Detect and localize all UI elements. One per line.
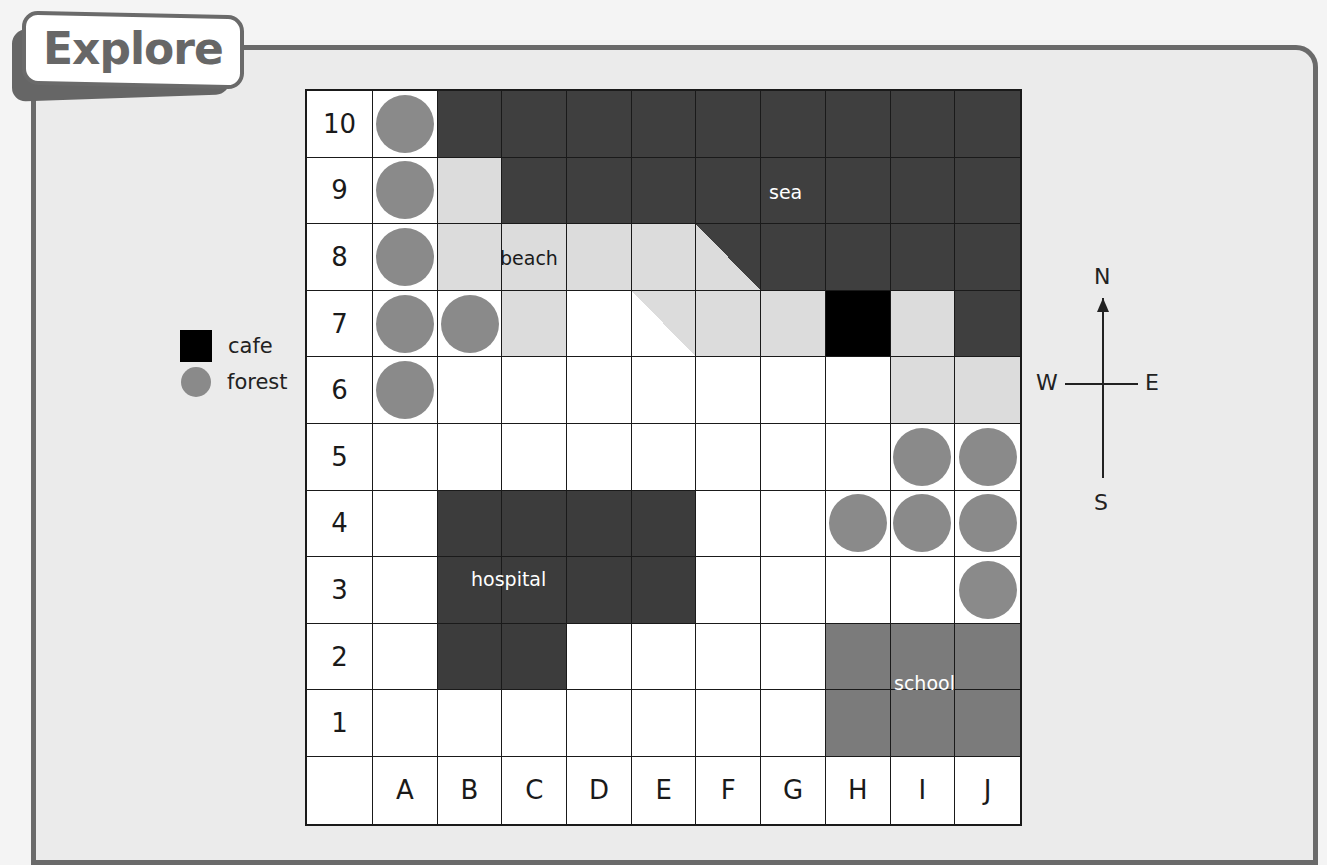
grid-cell-D6	[567, 357, 632, 424]
grid-cell-H4	[826, 491, 891, 558]
forest-circle-icon	[959, 428, 1017, 486]
grid-cell-F7	[696, 291, 761, 358]
forest-circle-icon	[376, 295, 434, 353]
grid-cell-E6	[632, 357, 697, 424]
row-label: 5	[307, 424, 373, 491]
forest-circle-icon	[959, 561, 1017, 619]
grid-cell-C4	[502, 491, 567, 558]
grid-cell-G4	[761, 491, 826, 558]
row-label: 6	[307, 357, 373, 424]
grid-cell-C10	[502, 91, 567, 158]
grid-cell-J8	[955, 224, 1020, 291]
grid-cell-H10	[826, 91, 891, 158]
grid-cell-B9	[438, 158, 503, 225]
forest-circle-icon	[181, 367, 211, 397]
compass-south: S	[1094, 490, 1108, 515]
compass-east: E	[1145, 370, 1159, 395]
grid-cell-A4	[373, 491, 438, 558]
grid-cell-C3	[502, 557, 567, 624]
legend-label: cafe	[228, 334, 273, 358]
grid-cell-D8	[567, 224, 632, 291]
row-label: 10	[307, 91, 373, 158]
grid-corner	[307, 757, 373, 824]
forest-circle-icon	[893, 494, 951, 552]
grid-cell-C6	[502, 357, 567, 424]
grid-cell-B6	[438, 357, 503, 424]
grid-cell-F8	[696, 224, 761, 291]
grid-cell-C1	[502, 690, 567, 757]
grid-cell-F3	[696, 557, 761, 624]
map-legend: cafe forest	[180, 328, 288, 400]
row-label: 8	[307, 224, 373, 291]
grid-cell-G8	[761, 224, 826, 291]
legend-item-cafe: cafe	[180, 328, 288, 364]
grid-cell-C9	[502, 158, 567, 225]
grid-cell-B4	[438, 491, 503, 558]
grid-cell-A6	[373, 357, 438, 424]
column-label: E	[632, 757, 697, 824]
grid-cell-J4	[955, 491, 1020, 558]
grid-cell-I7	[891, 291, 956, 358]
forest-circle-icon	[959, 494, 1017, 552]
grid-cell-D2	[567, 624, 632, 691]
grid-cell-E5	[632, 424, 697, 491]
grid-cell-J2	[955, 624, 1020, 691]
column-label: C	[502, 757, 567, 824]
compass-north: N	[1094, 264, 1110, 289]
grid-cell-A10	[373, 91, 438, 158]
grid-cell-B5	[438, 424, 503, 491]
row-label: 9	[307, 158, 373, 225]
grid-cell-I6	[891, 357, 956, 424]
grid-cell-G10	[761, 91, 826, 158]
grid-cell-C7	[502, 291, 567, 358]
grid-cell-I4	[891, 491, 956, 558]
grid-cell-G3	[761, 557, 826, 624]
grid-cell-E3	[632, 557, 697, 624]
column-label: F	[696, 757, 761, 824]
grid-cell-E4	[632, 491, 697, 558]
grid-cell-B7	[438, 291, 503, 358]
legend-label: forest	[227, 370, 288, 394]
grid-cell-H3	[826, 557, 891, 624]
map-grid: 10987654321ABCDEFGHIJ	[305, 89, 1022, 826]
grid-cell-F1	[696, 690, 761, 757]
grid-cell-D3	[567, 557, 632, 624]
grid-cell-H8	[826, 224, 891, 291]
grid-cell-H5	[826, 424, 891, 491]
grid-cell-A5	[373, 424, 438, 491]
column-label: J	[955, 757, 1020, 824]
grid-cell-C2	[502, 624, 567, 691]
grid-cell-E1	[632, 690, 697, 757]
grid-cell-G5	[761, 424, 826, 491]
grid-cell-J3	[955, 557, 1020, 624]
compass-west: W	[1036, 370, 1058, 395]
compass-horizontal-line	[1065, 383, 1138, 385]
legend-item-forest: forest	[180, 364, 288, 400]
grid-cell-D5	[567, 424, 632, 491]
grid-cell-D1	[567, 690, 632, 757]
column-label: D	[567, 757, 632, 824]
grid-cell-B10	[438, 91, 503, 158]
grid-cell-D10	[567, 91, 632, 158]
grid-cell-E10	[632, 91, 697, 158]
grid-cell-F5	[696, 424, 761, 491]
column-label: I	[891, 757, 956, 824]
grid-cell-J10	[955, 91, 1020, 158]
forest-circle-icon	[829, 494, 887, 552]
grid-cell-J1	[955, 690, 1020, 757]
grid-cell-D7	[567, 291, 632, 358]
grid-cell-G2	[761, 624, 826, 691]
grid-cell-A7	[373, 291, 438, 358]
grid-cell-F9	[696, 158, 761, 225]
grid-cell-B8	[438, 224, 503, 291]
forest-circle-icon	[893, 428, 951, 486]
page-title: Explore	[43, 22, 223, 73]
forest-circle-icon	[376, 361, 434, 419]
cafe-square-icon	[180, 330, 212, 362]
forest-circle-icon	[441, 295, 499, 353]
grid-cell-G1	[761, 690, 826, 757]
row-label: 2	[307, 624, 373, 691]
grid-cell-F4	[696, 491, 761, 558]
compass-vertical-line	[1102, 298, 1104, 478]
row-label: 1	[307, 690, 373, 757]
